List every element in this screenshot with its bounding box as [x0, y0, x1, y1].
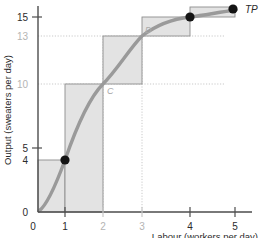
point-marker-5-16 — [228, 4, 237, 13]
x-tick-label-2: 2 — [100, 221, 106, 232]
point-marker-1-4 — [60, 155, 69, 164]
point-label-d: D — [145, 25, 152, 35]
y-tick-marks — [32, 17, 42, 148]
x-tick-label-0: 0 — [30, 221, 36, 232]
y-tick-label-13: 13 — [17, 31, 29, 42]
y-tick-label-15: 15 — [17, 12, 29, 23]
y-tick-label-4: 4 — [22, 155, 28, 166]
point-marker-4-15 — [185, 12, 194, 21]
total-product-chart: 15 13 10 5 4 0 0 1 2 3 4 5 C D TP Labour… — [0, 0, 267, 238]
chart-canvas: 15 13 10 5 4 0 0 1 2 3 4 5 C D TP Labour… — [0, 0, 267, 238]
x-tick-label-3: 3 — [139, 221, 145, 232]
x-axis-title: Labour (workers per day) — [152, 231, 258, 238]
x-tick-label-1: 1 — [62, 221, 68, 232]
tp-curve-label: TP — [245, 4, 258, 15]
y-tick-label-5: 5 — [22, 143, 28, 154]
step-rectangles — [38, 7, 235, 212]
y-axis-title: Output (sweaters per day) — [2, 55, 13, 165]
y-tick-label-0: 0 — [22, 207, 28, 218]
point-label-c: C — [107, 86, 114, 96]
y-tick-label-10: 10 — [17, 79, 29, 90]
